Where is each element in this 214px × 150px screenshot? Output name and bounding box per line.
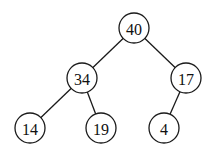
node-label: 40 bbox=[126, 21, 142, 38]
node-label: 4 bbox=[160, 121, 168, 138]
node-label: 19 bbox=[93, 121, 109, 138]
node-label: 34 bbox=[74, 71, 90, 88]
tree-node-right: 17 bbox=[171, 63, 201, 93]
tree-node-root: 40 bbox=[119, 13, 149, 43]
node-label: 14 bbox=[22, 121, 38, 138]
tree-node-left: 34 bbox=[67, 63, 97, 93]
node-label: 17 bbox=[178, 71, 194, 88]
tree-node-right-left: 4 bbox=[149, 113, 179, 143]
tree-diagram: 40 34 17 14 19 4 bbox=[0, 0, 214, 150]
tree-node-left-right: 19 bbox=[86, 113, 116, 143]
tree-node-left-left: 14 bbox=[15, 113, 45, 143]
